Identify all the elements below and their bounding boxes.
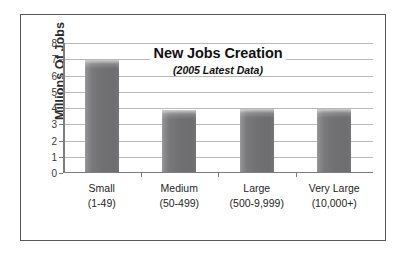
chart-subtitle-text: (2005 Latest Data) [168, 64, 268, 76]
x-axis-label-range: (1-49) [63, 196, 141, 211]
bar-large [240, 109, 274, 173]
y-tick-mark [59, 173, 63, 174]
chart-title-text: New Jobs Creation [150, 45, 287, 61]
chart-frame-border: Millions Of Jobs 012345678 New Jobs Crea… [20, 14, 386, 241]
y-tick-label: 5 [51, 86, 57, 97]
x-axis-label: Large(500-9,999) [218, 181, 296, 211]
x-axis-label-name: Very Large [296, 181, 374, 196]
bar-slot [141, 43, 219, 173]
y-tick-label: 7 [51, 54, 57, 65]
x-axis-label-range: (10,000+) [296, 196, 374, 211]
x-tick-mark [141, 173, 142, 177]
x-tick-mark [218, 173, 219, 177]
x-axis-label: Very Large(10,000+) [296, 181, 374, 211]
x-axis-line [63, 172, 373, 174]
x-axis-labels-group: Small(1-49)Medium(50-499)Large(500-9,999… [63, 181, 373, 227]
bars-group [63, 43, 373, 173]
x-axis-label-range: (500-9,999) [218, 196, 296, 211]
plot-area: 012345678 [63, 43, 373, 173]
x-axis-label-name: Medium [141, 181, 219, 196]
x-tick-mark [296, 173, 297, 177]
x-axis-label-name: Small [63, 181, 141, 196]
bar-small [85, 60, 119, 173]
bar-medium [162, 110, 196, 173]
y-tick-label: 2 [51, 135, 57, 146]
x-axis-label-range: (50-499) [141, 196, 219, 211]
y-tick-label: 6 [51, 70, 57, 81]
x-axis-label-name: Large [218, 181, 296, 196]
bar-slot [218, 43, 296, 173]
bar-slot [296, 43, 374, 173]
x-axis-label: Medium(50-499) [141, 181, 219, 211]
y-tick-label: 0 [51, 168, 57, 179]
y-axis-line [63, 43, 65, 173]
chart-title: New Jobs Creation [63, 45, 373, 61]
x-axis-label: Small(1-49) [63, 181, 141, 211]
y-tick-label: 1 [51, 151, 57, 162]
y-tick-label: 8 [51, 38, 57, 49]
y-tick-label: 3 [51, 119, 57, 130]
chart-figure: Millions Of Jobs 012345678 New Jobs Crea… [0, 0, 413, 255]
bar-very-large [317, 109, 351, 173]
y-tick-label: 4 [51, 103, 57, 114]
bar-slot [63, 43, 141, 173]
chart-subtitle: (2005 Latest Data) [63, 64, 373, 76]
